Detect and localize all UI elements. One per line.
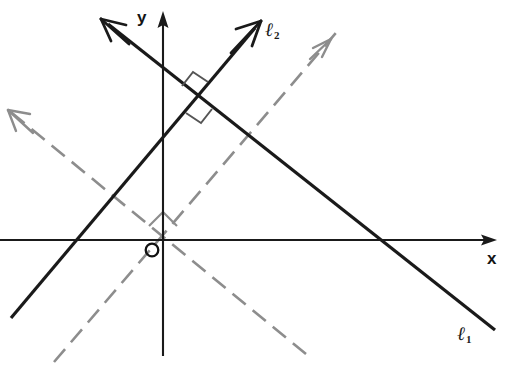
geometry-diagram: y x ℓ1 ℓ2 O bbox=[0, 0, 510, 379]
line-l1-label-subscript: 1 bbox=[466, 333, 472, 345]
line-l2-label-script: ℓ bbox=[265, 19, 273, 40]
x-axis-label: x bbox=[487, 250, 496, 267]
line-l2 bbox=[11, 21, 261, 318]
line-l1-label-script: ℓ bbox=[457, 323, 465, 344]
line-l1 bbox=[101, 19, 495, 330]
line-l1-label: ℓ1 bbox=[457, 324, 470, 343]
l2-segment bbox=[11, 28, 255, 318]
l1-segment bbox=[108, 24, 495, 330]
line-l2-label: ℓ2 bbox=[265, 20, 278, 39]
coordinate-axes bbox=[0, 11, 497, 356]
dashed-falling-arrowhead bbox=[8, 110, 33, 133]
origin-point-circle bbox=[146, 244, 159, 257]
dashed-rising-line bbox=[54, 27, 341, 362]
l1-arrowhead bbox=[101, 19, 129, 44]
y-axis-label: y bbox=[137, 9, 146, 26]
figure-canvas bbox=[0, 0, 510, 379]
dashed-rising-arrowhead bbox=[310, 39, 331, 59]
l2-arrowhead bbox=[231, 21, 261, 53]
right-angle-mark-lower bbox=[186, 109, 212, 123]
line-l2-label-subscript: 2 bbox=[274, 29, 280, 41]
